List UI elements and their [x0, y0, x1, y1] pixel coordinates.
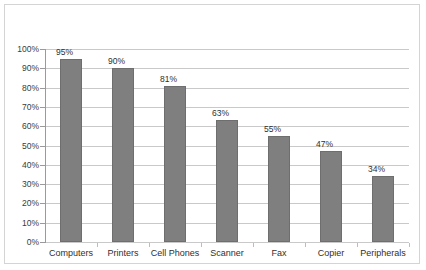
bar[interactable] [112, 68, 134, 242]
bar[interactable] [268, 136, 290, 242]
x-axis-category-label: Fax [253, 249, 305, 258]
y-axis-tick-label: 60% [5, 122, 39, 131]
y-axis-labels: 100%90%80%70%60%50%40%30%20%10%0% [5, 5, 39, 265]
y-axis-tick [40, 146, 45, 147]
x-axis-category-label: Copier [305, 249, 357, 258]
y-axis-tick-label: 30% [5, 180, 39, 189]
x-axis-category-label: Scanner [201, 249, 253, 258]
bar[interactable] [164, 86, 186, 242]
chart-frame: 100%90%80%70%60%50%40%30%20%10%0% 95%90%… [4, 4, 420, 264]
x-axis-tick [357, 243, 358, 247]
gridline [45, 49, 409, 50]
x-axis-tick [253, 243, 254, 247]
bar[interactable] [60, 59, 82, 242]
x-axis-tick [97, 243, 98, 247]
y-axis-tick-label: 90% [5, 64, 39, 73]
x-axis-tick [201, 243, 202, 247]
bar-value-label: 95% [56, 48, 73, 57]
y-axis-tick-label: 50% [5, 142, 39, 151]
y-axis-tick [40, 107, 45, 108]
bar-value-label: 81% [160, 75, 177, 84]
bar[interactable] [372, 176, 394, 242]
bar[interactable] [320, 151, 342, 242]
y-axis-tick [40, 242, 45, 243]
bar-value-label: 63% [212, 109, 229, 118]
y-axis-tick [40, 165, 45, 166]
y-axis-tick [40, 126, 45, 127]
y-axis-tick-label: 10% [5, 219, 39, 228]
y-axis-tick [40, 203, 45, 204]
x-axis-category-label: Cell Phones [149, 249, 201, 258]
y-axis-tick [40, 223, 45, 224]
y-axis-tick [40, 68, 45, 69]
y-axis-tick [40, 49, 45, 50]
y-axis-tick [40, 88, 45, 89]
x-axis-tick [409, 243, 410, 247]
bar-value-label: 55% [264, 125, 281, 134]
y-axis-line [45, 49, 46, 243]
bar-chart: 100%90%80%70%60%50%40%30%20%10%0% 95%90%… [5, 5, 421, 265]
y-axis-tick-label: 70% [5, 103, 39, 112]
gridline [45, 68, 409, 69]
bar-value-label: 47% [316, 140, 333, 149]
x-axis-category-label: Peripherals [357, 249, 409, 258]
bar-value-label: 90% [108, 57, 125, 66]
y-axis-tick-label: 100% [5, 45, 39, 54]
x-axis-tick [149, 243, 150, 247]
bar[interactable] [216, 120, 238, 242]
y-axis-tick [40, 184, 45, 185]
x-axis-tick [305, 243, 306, 247]
y-axis-tick-label: 80% [5, 84, 39, 93]
x-axis-category-label: Printers [97, 249, 149, 258]
bar-value-label: 34% [368, 165, 385, 174]
y-axis-tick-label: 40% [5, 161, 39, 170]
y-axis-tick-label: 20% [5, 199, 39, 208]
x-axis-category-label: Computers [45, 249, 97, 258]
y-axis-tick-label: 0% [5, 238, 39, 247]
gridline [45, 242, 409, 243]
gridline [45, 88, 409, 89]
